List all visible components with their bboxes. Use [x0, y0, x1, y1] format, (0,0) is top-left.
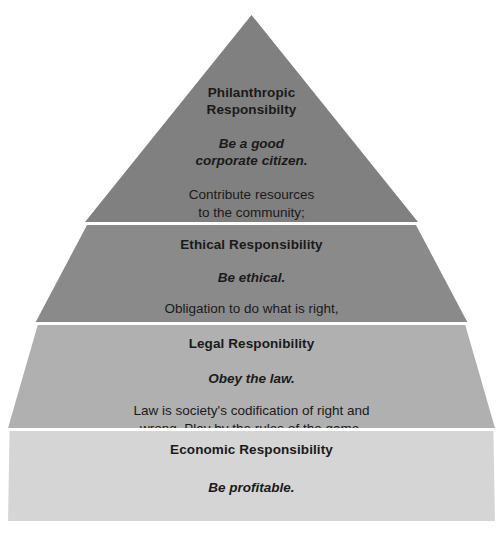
pyramid-tier-ethical: Ethical Responsibility Be ethical. Oblig…	[0, 225, 503, 322]
tier-philanthropic-tagline: Be a good corporate citizen.	[196, 135, 308, 169]
tier-philanthropic-body-line1: Contribute resources	[186, 186, 317, 204]
tier-legal-tagline: Obey the law.	[208, 370, 295, 387]
tier-legal-tagline-line1: Obey the law.	[208, 370, 295, 387]
tier-philanthropic-title-line1: Philanthropic	[207, 84, 297, 101]
tier-economic-title-line1: Economic Responsibility	[170, 441, 333, 458]
tier-philanthropic-title: Philanthropic Responsibilty	[207, 84, 297, 118]
tier-philanthropic-title-line2: Responsibilty	[207, 101, 297, 118]
pyramid-tier-philanthropic: Philanthropic Responsibilty Be a good co…	[0, 15, 503, 222]
tier-legal-title: Legal Responibility	[189, 335, 315, 352]
tier-philanthropic-body-line2: to the community;	[186, 204, 317, 222]
tier-ethical-tagline-line1: Be ethical.	[218, 269, 286, 286]
pyramid-tier-legal: Legal Responibility Obey the law. Law is…	[0, 325, 503, 428]
pyramid-tier-economic: Economic Responsibility Be profitable. T…	[0, 431, 503, 521]
tier-legal-body-line1: Law is society's codification of right a…	[134, 402, 370, 420]
tier-ethical-title-line1: Ethical Responsibility	[180, 236, 322, 253]
tier-economic-title: Economic Responsibility	[170, 441, 333, 458]
tier-ethical-title: Ethical Responsibility	[180, 236, 322, 253]
tier-economic-body: The foundation upon which all others res…	[126, 517, 377, 535]
tier-economic-tagline: Be profitable.	[208, 479, 294, 496]
tier-legal-title-line1: Legal Responibility	[189, 335, 315, 352]
tier-economic-body-line1: The foundation upon which all others res…	[126, 517, 377, 535]
tier-ethical-tagline: Be ethical.	[218, 269, 286, 286]
tier-ethical-body-line1: Obligation to do what is right,	[164, 300, 338, 318]
tier-philanthropic-tagline-line2: corporate citizen.	[196, 152, 308, 169]
csr-pyramid-diagram: Philanthropic Responsibilty Be a good co…	[0, 0, 503, 544]
tier-philanthropic-tagline-line1: Be a good	[196, 135, 308, 152]
tier-economic-tagline-line1: Be profitable.	[208, 479, 294, 496]
